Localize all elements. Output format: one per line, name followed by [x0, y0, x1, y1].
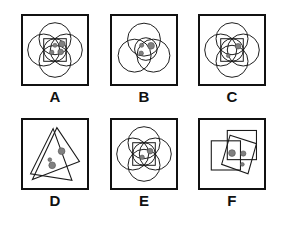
panel-a-label: A [14, 88, 96, 106]
panel-c-figure [200, 16, 264, 84]
panel-f-figure [200, 120, 264, 188]
panel-e[interactable]: E [103, 114, 191, 218]
panel-f-dots [229, 150, 246, 167]
panel-d-figure [23, 120, 87, 188]
puzzle-grid: A B [0, 0, 285, 232]
panel-b[interactable]: B [103, 10, 191, 114]
panel-f-label: F [191, 192, 273, 210]
panel-c[interactable]: C [191, 10, 279, 114]
panel-d-label: D [14, 192, 96, 210]
panel-f[interactable]: F [191, 114, 279, 218]
panel-a[interactable]: A [14, 10, 102, 114]
panel-b-label: B [103, 88, 185, 106]
panel-e-figure [112, 120, 176, 188]
panel-c-box [198, 14, 266, 86]
panel-d[interactable]: D [14, 114, 102, 218]
panel-a-box [21, 14, 89, 86]
panel-e-label: E [103, 192, 185, 210]
panel-a-figure [23, 16, 87, 84]
panel-b-figure [112, 16, 176, 84]
panel-c-label: C [191, 88, 273, 106]
panel-d-box [21, 118, 89, 190]
panel-e-dots [140, 148, 153, 159]
panel-b-box [110, 14, 178, 86]
panel-d-dots [48, 148, 65, 169]
panel-f-box [198, 118, 266, 190]
panel-e-box [110, 118, 178, 190]
